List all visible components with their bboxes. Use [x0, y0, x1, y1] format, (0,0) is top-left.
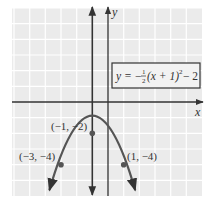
eq-rhs-a: (x + 1) — [147, 70, 179, 83]
parabola-graph: y x (−1, −2) (−3, −4) (1, −4) y = − 1 2 … — [0, 0, 211, 209]
vertex-label: (−1, −2) — [51, 120, 88, 133]
eq-lhs: y = − — [115, 70, 142, 83]
eq-frac-num: 1 — [142, 68, 146, 76]
point-left-label: (−3, −4) — [19, 150, 56, 163]
svg-text:y = −: y = − — [115, 70, 142, 83]
x-axis-label: x — [194, 105, 201, 119]
vertex-point — [90, 131, 96, 137]
y-axis-label: y — [111, 5, 118, 19]
eq-frac-den: 2 — [142, 77, 146, 85]
equation-box: y = − 1 2 (x + 1) 2 − 2 — [112, 63, 200, 88]
point-right-label: (1, −4) — [127, 150, 157, 163]
eq-rhs-b: − 2 — [183, 70, 198, 82]
point-right — [121, 162, 127, 168]
point-left — [58, 162, 64, 168]
